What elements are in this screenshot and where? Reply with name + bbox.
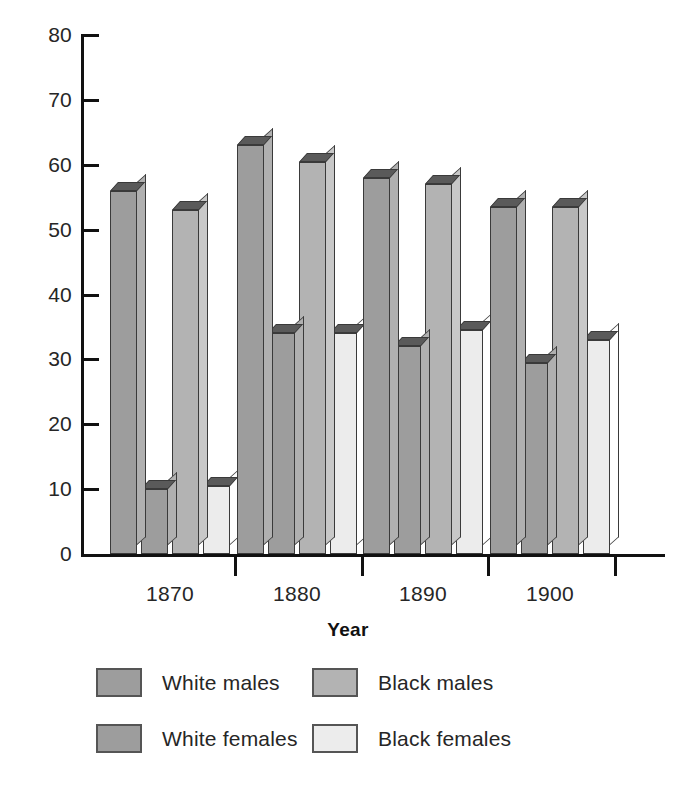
y-tick-label: 20 (28, 413, 72, 434)
x-axis-title: Year (0, 619, 696, 641)
bar-side-face (264, 128, 273, 545)
y-tick-label: 80 (28, 24, 72, 45)
y-tick-mark (81, 164, 99, 167)
bar-side-face (199, 193, 208, 545)
y-axis-labels: 01020304050607080 (14, 0, 72, 600)
x-tick-label: 1900 (500, 582, 600, 606)
chart-legend: White malesBlack malesWhite femalesBlack… (96, 668, 616, 776)
x-tick-label: 1880 (247, 582, 347, 606)
legend-label: Black males (378, 671, 493, 695)
x-tick-mark (361, 557, 364, 576)
x-tick-label: 1890 (373, 582, 473, 606)
x-tick-mark (234, 557, 237, 576)
y-tick-label: 40 (28, 284, 72, 305)
plot-area: 01020304050607080 1870188018901900 Year (0, 0, 696, 600)
bar-side-face (452, 167, 461, 545)
legend-swatch (96, 724, 142, 753)
legend-item-black-females[interactable]: Black females (312, 724, 511, 753)
y-tick-mark (81, 423, 99, 426)
legend-label: White males (162, 671, 280, 695)
x-tick-label: 1870 (120, 582, 220, 606)
x-tick-mark (487, 557, 490, 576)
y-tick-label: 50 (28, 219, 72, 240)
legend-label: Black females (378, 727, 511, 751)
legend-item-white-males[interactable]: White males (96, 668, 280, 697)
bar-front-face (110, 191, 137, 554)
bar-front-face (237, 145, 264, 554)
legend-swatch (312, 668, 358, 697)
bar-side-face (610, 323, 619, 545)
y-tick-label: 70 (28, 89, 72, 110)
x-axis-line (81, 554, 665, 557)
bar-front-face (363, 178, 390, 554)
legend-swatch (96, 668, 142, 697)
x-tick-mark (614, 557, 617, 576)
y-tick-mark (81, 358, 99, 361)
bar-front-face (490, 207, 517, 554)
bar-side-face (579, 190, 588, 545)
bar-1870-white-males (110, 182, 137, 554)
legend-swatch (312, 724, 358, 753)
y-tick-label: 0 (28, 543, 72, 564)
y-tick-mark (81, 229, 99, 232)
y-tick-mark (81, 294, 99, 297)
bar-1890-white-males (363, 169, 390, 554)
legend-item-white-females[interactable]: White females (96, 724, 298, 753)
bar-side-face (390, 161, 399, 545)
bar-side-face (421, 329, 430, 545)
bar-side-face (517, 190, 526, 545)
y-tick-label: 10 (28, 478, 72, 499)
y-tick-mark (81, 488, 99, 491)
y-tick-mark (81, 99, 99, 102)
bar-1900-white-males (490, 198, 517, 554)
y-tick-mark (81, 34, 99, 37)
legend-item-black-males[interactable]: Black males (312, 668, 493, 697)
bar-1880-white-males (237, 136, 264, 554)
y-tick-label: 60 (28, 154, 72, 175)
bar-side-face (137, 174, 146, 545)
bar-side-face (295, 316, 304, 545)
bar-side-face (548, 346, 557, 545)
bar-side-face (326, 144, 335, 545)
legend-label: White females (162, 727, 298, 751)
y-tick-label: 30 (28, 348, 72, 369)
chart-page: 01020304050607080 1870188018901900 Year … (0, 0, 696, 785)
